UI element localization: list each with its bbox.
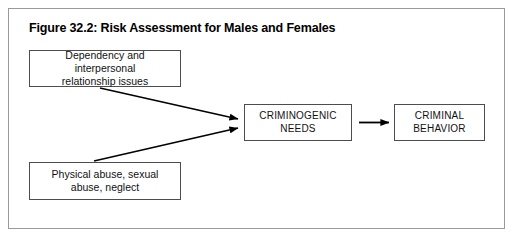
- node-box-criminal-behavior: CRIMINAL BEHAVIOR: [394, 104, 485, 141]
- node-box-abuse: Physical abuse, sexual abuse, neglect: [29, 162, 181, 200]
- figure-root: Figure 32.2: Risk Assessment for Males a…: [0, 0, 514, 245]
- figure-title: Figure 32.2: Risk Assessment for Males a…: [29, 20, 335, 35]
- node-label-criminal-behavior: CRIMINAL BEHAVIOR: [407, 110, 472, 135]
- node-label-criminogenic-needs: CRIMINOGENIC NEEDS: [253, 110, 342, 135]
- node-box-criminogenic-needs: CRIMINOGENIC NEEDS: [244, 104, 352, 141]
- node-label-abuse: Physical abuse, sexual abuse, neglect: [46, 168, 165, 194]
- node-box-dependency: Dependency and interpersonal relationshi…: [29, 50, 181, 87]
- node-label-dependency: Dependency and interpersonal relationshi…: [30, 49, 180, 88]
